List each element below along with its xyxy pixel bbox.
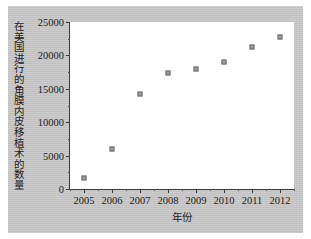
y-axis-minor-tick [68, 72, 70, 73]
x-axis-tick-label: 2008 [158, 195, 179, 206]
x-axis-tick-label: 2012 [270, 195, 291, 206]
plot-area: 0500010000150002000025000200520062007200… [69, 22, 294, 190]
x-axis-title: 年份 [69, 209, 294, 224]
y-axis-tick [66, 122, 70, 123]
y-axis-minor-tick [68, 106, 70, 107]
x-axis-tick [112, 189, 113, 193]
x-axis-minor-tick [238, 189, 239, 191]
x-axis-tick [252, 189, 253, 193]
x-axis-tick [224, 189, 225, 193]
y-axis-tick-label: 0 [59, 184, 64, 195]
x-axis-tick-label: 2010 [214, 195, 235, 206]
x-axis-minor-tick [154, 189, 155, 191]
data-point [166, 71, 171, 76]
x-axis-tick-label: 2009 [186, 195, 207, 206]
x-axis-tick-label: 2007 [130, 195, 151, 206]
data-point [222, 60, 227, 65]
data-point [138, 92, 143, 97]
data-point [82, 175, 87, 180]
y-axis-tick-label: 10000 [38, 117, 64, 128]
x-axis-tick [84, 189, 85, 193]
y-axis-tick-label: 20000 [38, 50, 64, 61]
x-axis-tick [140, 189, 141, 193]
y-axis-tick-label: 5000 [43, 150, 64, 161]
x-axis-tick [280, 189, 281, 193]
y-axis-tick [66, 156, 70, 157]
y-axis-tick [66, 22, 70, 23]
x-axis-tick-label: 2006 [102, 195, 123, 206]
data-point [278, 34, 283, 39]
y-axis-title: 在美国进行的角膜内皮移植术的数量 [12, 22, 26, 190]
y-axis-minor-tick [68, 172, 70, 173]
y-axis-tick-label: 25000 [38, 17, 64, 28]
chart-figure: 在美国进行的角膜内皮移植术的数量 05000100001500020000250… [8, 6, 303, 233]
x-axis-tick-label: 2011 [242, 195, 263, 206]
x-axis-tick [196, 189, 197, 193]
x-axis-minor-tick [182, 189, 183, 191]
x-axis-tick [168, 189, 169, 193]
data-point [110, 146, 115, 151]
x-axis-minor-tick [98, 189, 99, 191]
x-axis-tick-label: 2005 [74, 195, 95, 206]
data-point [250, 44, 255, 49]
y-axis-tick [66, 89, 70, 90]
y-axis-minor-tick [68, 139, 70, 140]
y-axis-tick-label: 15000 [38, 83, 64, 94]
x-axis-minor-tick [294, 189, 295, 191]
x-axis-minor-tick [266, 189, 267, 191]
y-axis-minor-tick [68, 39, 70, 40]
y-axis-tick [66, 55, 70, 56]
data-point [194, 66, 199, 71]
x-axis-minor-tick [126, 189, 127, 191]
x-axis-minor-tick [70, 189, 71, 191]
x-axis-minor-tick [210, 189, 211, 191]
